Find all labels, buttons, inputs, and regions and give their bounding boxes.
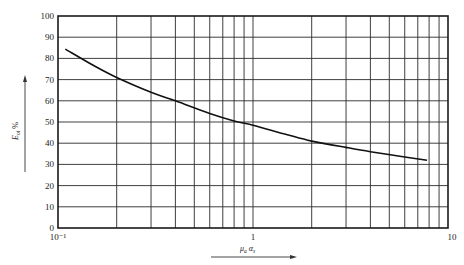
y-tick-label: 40 [45,138,55,148]
y-tick-label: 70 [45,75,55,85]
x-tick-label: 10⁻¹ [50,232,67,242]
y-tick-label: 30 [45,159,55,169]
x-tick-label: 1 [251,232,256,242]
x-axis-label: μaαs [239,244,255,254]
y-tick-label: 90 [45,32,55,42]
y-tick-label: 100 [41,11,55,21]
y-tick-label: 60 [45,96,55,106]
y-axis-label: Eot% [11,122,21,141]
y-tick-label: 50 [45,117,55,127]
y-axis-arrowhead-icon [23,75,27,82]
grid [58,16,448,228]
y-axis-label-group: Eot% [11,75,27,172]
y-tick-label: 80 [45,53,55,63]
y-tick-label: 20 [45,181,55,191]
x-axis-arrowhead-icon [290,255,297,259]
chart: 0102030405060708090100 10⁻¹110 Eot% μaαs [0,0,464,265]
x-tick-labels: 10⁻¹110 [50,232,457,242]
x-axis-label-group: μaαs [211,244,297,259]
y-tick-labels: 0102030405060708090100 [41,11,55,233]
y-tick-label: 10 [45,202,55,212]
x-tick-label: 10 [448,232,458,242]
